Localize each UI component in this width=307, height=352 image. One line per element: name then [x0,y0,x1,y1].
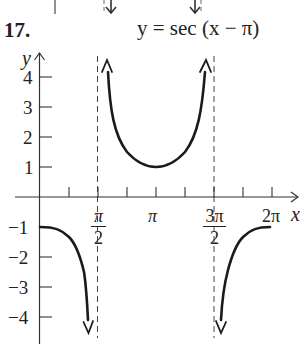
arrow-down-left-icon [84,321,94,333]
y-tick-neg-3: −3 [8,278,28,297]
y-tick-4: 4 [23,68,33,87]
x-tick-three-pi-half: 3π 2 [203,207,226,247]
x-axis-label: x [291,204,300,224]
y-axis-label: y [22,48,31,68]
y-tick-2: 2 [23,128,33,147]
y-tick-3: 3 [23,98,33,117]
y-tick-neg-1: −1 [8,218,28,237]
equation-text: y = sec (x − π) [137,16,259,40]
y-tick-neg-4: −4 [8,308,28,327]
arrow-up-right-icon [200,60,211,72]
previous-figure-remnant [55,0,201,14]
equation-title: y = sec (x − π) [137,18,259,39]
y-tick-neg-2: −2 [8,248,28,267]
graph-canvas [0,0,307,352]
x-tick-pi-half: π 2 [91,207,106,247]
y-axis [35,53,53,344]
x-tick-two-pi: 2π [262,207,280,225]
arrow-down-right-icon [216,321,226,333]
y-tick-1: 1 [24,158,34,177]
curve-branch-right [221,227,270,320]
arrow-up-left-icon [102,60,112,72]
problem-number: 17. [4,20,30,41]
x-axis [15,187,298,202]
curve-branch-middle [108,72,205,167]
x-tick-pi: π [148,207,157,225]
curve-branch-left [40,227,88,320]
